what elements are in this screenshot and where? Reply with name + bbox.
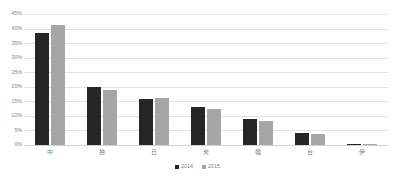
- legend-swatch-icon: [175, 165, 179, 169]
- legend-item[interactable]: 2015: [202, 164, 220, 169]
- bar-2015: [259, 121, 273, 145]
- bar-2015: [51, 25, 65, 145]
- x-axis-label: 韓: [232, 148, 284, 160]
- bar-group: [232, 14, 284, 145]
- bar-group: [76, 14, 128, 145]
- bar-2015: [311, 134, 325, 145]
- bar-2014: [191, 107, 205, 145]
- y-axis-tick-label: 5%: [2, 128, 22, 133]
- x-axis-label: 台: [284, 148, 336, 160]
- bar-2015: [363, 144, 377, 145]
- y-axis-tick-label: 0%: [2, 142, 22, 147]
- x-axis-label: 独: [76, 148, 128, 160]
- legend-label: 2014: [181, 164, 193, 169]
- y-axis-tick-label: 40%: [2, 26, 22, 31]
- bar-chart: 45%40%35%30%25%20%15%10%5%0% 中独日米韓台伊 201…: [0, 0, 395, 176]
- x-axis-label: 米: [180, 148, 232, 160]
- y-axis-tick-label: 45%: [2, 11, 22, 16]
- bar-group: [180, 14, 232, 145]
- y-axis-tick-label: 35%: [2, 41, 22, 46]
- x-axis-label: 中: [24, 148, 76, 160]
- x-axis-label: 日: [128, 148, 180, 160]
- y-axis-tick-label: 20%: [2, 84, 22, 89]
- bar-groups: [24, 14, 388, 145]
- bar-2015: [103, 90, 117, 145]
- bar-2014: [35, 33, 49, 145]
- y-axis-tick-label: 10%: [2, 113, 22, 118]
- bar-2015: [155, 98, 169, 145]
- bar-2014: [243, 119, 257, 145]
- bar-group: [128, 14, 180, 145]
- x-axis-category-labels: 中独日米韓台伊: [24, 148, 388, 160]
- legend-swatch-icon: [202, 165, 206, 169]
- y-axis-tick-label: 30%: [2, 55, 22, 60]
- bar-2015: [207, 109, 221, 145]
- bar-2014: [347, 144, 361, 145]
- bar-group: [336, 14, 388, 145]
- x-axis-label: 伊: [336, 148, 388, 160]
- bar-group: [284, 14, 336, 145]
- legend-item[interactable]: 2014: [175, 164, 193, 169]
- y-axis-tick-label: 25%: [2, 70, 22, 75]
- legend-label: 2015: [208, 164, 220, 169]
- y-axis-tick-label: 15%: [2, 99, 22, 104]
- bar-2014: [87, 87, 101, 145]
- bar-group: [24, 14, 76, 145]
- bar-2014: [295, 133, 309, 145]
- gridline: [24, 145, 388, 146]
- chart-legend: 20142015: [0, 161, 395, 173]
- bar-2014: [139, 99, 153, 145]
